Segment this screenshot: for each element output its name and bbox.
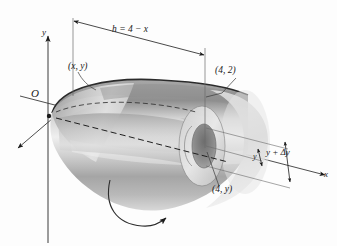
origin-point [47, 114, 51, 118]
curve-point-label: (x, y) [68, 62, 88, 72]
annulus-hole [192, 124, 216, 168]
shell-inner-label: y [253, 153, 257, 161]
y-axis-label: y [42, 28, 46, 37]
figure-canvas [0, 0, 337, 246]
height-label: h = 4 − x [112, 25, 148, 35]
tail-ellipse [220, 90, 270, 194]
revolution-solid-figure: O y x h = 4 − x (x, y) (4, 2) (4, y) y +… [0, 0, 337, 246]
origin-label: O [31, 88, 39, 99]
top-right-point-label: (4, 2) [215, 66, 236, 76]
annulus-face [179, 106, 225, 186]
inner-point-label: (4, y) [212, 185, 232, 195]
shell-outer-label: y + Δy [266, 148, 290, 157]
x-axis-label: x [324, 170, 328, 179]
